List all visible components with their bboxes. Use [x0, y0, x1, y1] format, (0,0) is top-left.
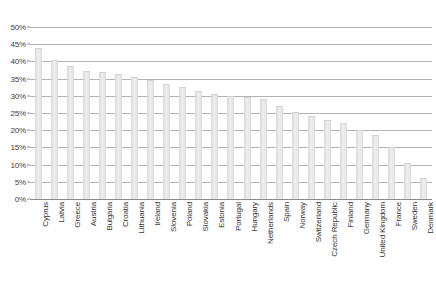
bar	[147, 80, 154, 199]
bar-slot	[271, 27, 287, 199]
bar	[163, 84, 170, 199]
x-axis-tick-label: Switzerland	[315, 202, 323, 242]
bar-slot	[400, 27, 416, 199]
y-axis-tick-label: 30%	[11, 91, 26, 100]
bar	[35, 48, 42, 199]
bar-chart: 50%45%40%35%30%25%20%15%10%5%0% CyprusLa…	[0, 0, 436, 286]
bar	[356, 130, 363, 199]
y-axis-tick-label: 25%	[11, 109, 26, 118]
bar	[404, 163, 411, 199]
bar	[99, 72, 106, 199]
x-axis-tick-label: Croatia	[122, 202, 130, 227]
bar	[388, 147, 395, 199]
bar	[308, 116, 315, 199]
y-axis-tick-label: 0%	[15, 195, 26, 204]
x-axis-tick-label: Lithuania	[138, 202, 146, 234]
bar	[179, 87, 186, 199]
bar-slot	[62, 27, 78, 199]
x-axis-tick-label: Portugal	[235, 202, 243, 231]
x-axis-tick-label: Cyprus	[42, 202, 50, 227]
y-axis-tick-label: 45%	[11, 40, 26, 49]
x-axis-tick-label: Norway	[299, 202, 307, 229]
bar-slot	[191, 27, 207, 199]
x-axis-tick-label: Finland	[347, 202, 355, 228]
y-axis-tick-label: 15%	[11, 143, 26, 152]
x-axis-tick-label: Poland	[186, 202, 194, 226]
bar	[420, 178, 427, 199]
bar-slot	[94, 27, 110, 199]
x-axis-tick-label: Netherlands	[267, 202, 275, 244]
bar-slot	[239, 27, 255, 199]
y-axis-tick-label: 35%	[11, 74, 26, 83]
bar-slot	[30, 27, 46, 199]
bar	[324, 120, 331, 199]
x-axis-tick-label: Bulgaria	[106, 202, 114, 231]
bar-slot	[352, 27, 368, 199]
bar-slot	[368, 27, 384, 199]
bar-slot	[223, 27, 239, 199]
bar-slot	[207, 27, 223, 199]
y-axis-tick-label: 10%	[11, 160, 26, 169]
bar	[260, 99, 267, 199]
x-axis-tick-label: Estonia	[218, 202, 226, 228]
x-axis-tick-label: United Kingdom	[379, 202, 387, 258]
x-axis-tick-label: Slovenia	[170, 202, 178, 232]
x-axis-tick-label: Latvia	[58, 202, 66, 223]
plot-area	[30, 27, 432, 199]
x-axis-tick-label: Hungary	[251, 202, 259, 232]
bar	[83, 71, 90, 199]
bar	[276, 106, 283, 199]
x-axis-tick-label: France	[395, 202, 403, 226]
x-axis-tick-label: Greece	[74, 202, 82, 228]
bar-slot	[143, 27, 159, 199]
y-axis: 50%45%40%35%30%25%20%15%10%5%0%	[0, 0, 30, 286]
x-axis-tick-label: Czech Republic	[331, 202, 339, 257]
x-axis-tick-label: Germany	[363, 202, 371, 234]
x-axis-tick-label: Slovakia	[202, 202, 210, 231]
bar	[244, 97, 251, 199]
bar	[51, 60, 58, 199]
x-axis: CyprusLatviaGreeceAustriaBulgariaCroatia…	[30, 200, 432, 286]
y-axis-tick-label: 50%	[11, 23, 26, 32]
bar	[372, 135, 379, 199]
bar	[211, 94, 218, 199]
bar-slot	[319, 27, 335, 199]
x-axis-tick-label: Ireland	[154, 202, 162, 226]
x-axis-tick-label: Sweden	[411, 202, 419, 230]
x-axis-tick-label: Denmark	[427, 202, 435, 234]
bar	[227, 96, 234, 199]
bar-slot	[110, 27, 126, 199]
y-axis-tick-label: 5%	[15, 177, 26, 186]
bar-slot	[159, 27, 175, 199]
bar-slot	[255, 27, 271, 199]
bar-slot	[287, 27, 303, 199]
bar	[115, 74, 122, 199]
y-axis-tick-label: 20%	[11, 126, 26, 135]
bar	[195, 91, 202, 199]
bar-slot	[175, 27, 191, 199]
y-axis-tick-label: 40%	[11, 57, 26, 66]
x-axis-tick-label: Spain	[283, 202, 291, 222]
bar-slot	[126, 27, 142, 199]
bar-slot	[78, 27, 94, 199]
bar-slot	[335, 27, 351, 199]
bar	[340, 123, 347, 199]
bar-slot	[303, 27, 319, 199]
bar-series	[30, 27, 432, 199]
bar-slot	[384, 27, 400, 199]
bar-slot	[416, 27, 432, 199]
x-axis-tick-label: Austria	[90, 202, 98, 226]
bar	[131, 77, 138, 199]
bar-slot	[46, 27, 62, 199]
bar	[67, 66, 74, 199]
bar	[292, 112, 299, 199]
